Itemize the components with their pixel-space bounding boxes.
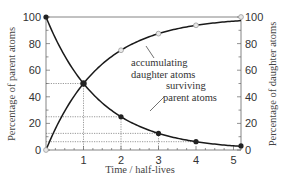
- left-y-tick-label: 60: [29, 64, 41, 76]
- x-tick-label: 5: [230, 154, 236, 166]
- right-y-tick-label: 80: [245, 38, 257, 50]
- parent-point: [193, 139, 198, 144]
- left-y-tick-label: 20: [29, 117, 41, 129]
- right-y-tick-label: 0: [245, 144, 251, 156]
- parent-curve: [46, 17, 241, 146]
- right-y-tick-label: 20: [245, 117, 257, 129]
- daughter-point: [44, 148, 49, 153]
- parent-point: [43, 14, 48, 19]
- parent-annotation: surviving parent atoms: [150, 80, 217, 111]
- parent-point: [238, 143, 243, 148]
- left-y-axis-title: Percentage of parent atoms: [6, 27, 17, 141]
- parent-point: [80, 80, 86, 86]
- tick-labels: 00202040406060808010010012345: [23, 11, 264, 166]
- x-tick-label: 1: [80, 154, 86, 166]
- daughter-curve: [46, 21, 241, 150]
- left-y-tick-label: 0: [35, 144, 41, 156]
- right-y-tick-label: 60: [245, 64, 257, 76]
- half-life-chart: 00202040406060808010010012345 Time / hal…: [0, 0, 284, 185]
- parent-point: [156, 131, 161, 136]
- right-y-axis-title: Percentage of daughter atoms: [267, 22, 278, 147]
- daughter-point: [119, 48, 124, 53]
- parent-point: [118, 114, 123, 119]
- daughter-point: [239, 15, 244, 20]
- x-tick-label: 4: [193, 154, 199, 166]
- x-axis-title: Time / half-lives: [105, 164, 175, 175]
- daughter-point: [194, 23, 199, 28]
- right-y-tick-label: 100: [245, 11, 263, 23]
- left-y-tick-label: 40: [29, 91, 41, 103]
- daughter-point: [156, 31, 161, 36]
- parent-annotation-line2: parent atoms: [163, 92, 217, 103]
- parent-annotation-line1: surviving: [166, 80, 206, 91]
- left-y-tick-label: 80: [29, 38, 41, 50]
- daughter-annotation: accumulating daughter atoms: [131, 46, 195, 80]
- left-y-tick-label: 100: [23, 11, 41, 23]
- right-y-tick-label: 40: [245, 91, 257, 103]
- daughter-annotation-line2: daughter atoms: [131, 69, 195, 80]
- daughter-annotation-line1: accumulating: [131, 57, 188, 68]
